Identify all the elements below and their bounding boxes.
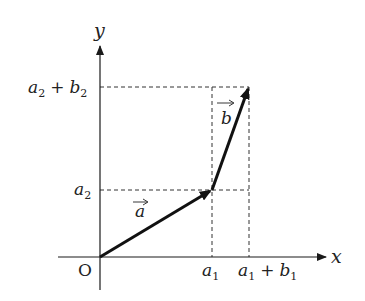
vector-b-label: b <box>217 100 234 128</box>
vector-a-label: a <box>133 199 148 221</box>
vector-b <box>212 89 248 190</box>
x-tick-a1: a1 <box>202 260 219 283</box>
origin-label: O <box>78 260 92 280</box>
y-tick-a2b2: a2+b2 <box>28 77 87 100</box>
y-tick-a2: a2 <box>74 179 91 202</box>
svg-text:b: b <box>221 108 232 128</box>
x-axis-label: x <box>331 245 342 267</box>
vector-a <box>100 191 210 257</box>
x-tick-a1b1: a1+b1 <box>238 260 297 283</box>
vector-diagram: y x O a2+b2 a2 a1 a1+b1 a b <box>0 0 365 301</box>
y-axis-label: y <box>93 19 105 41</box>
svg-text:a: a <box>135 201 145 221</box>
